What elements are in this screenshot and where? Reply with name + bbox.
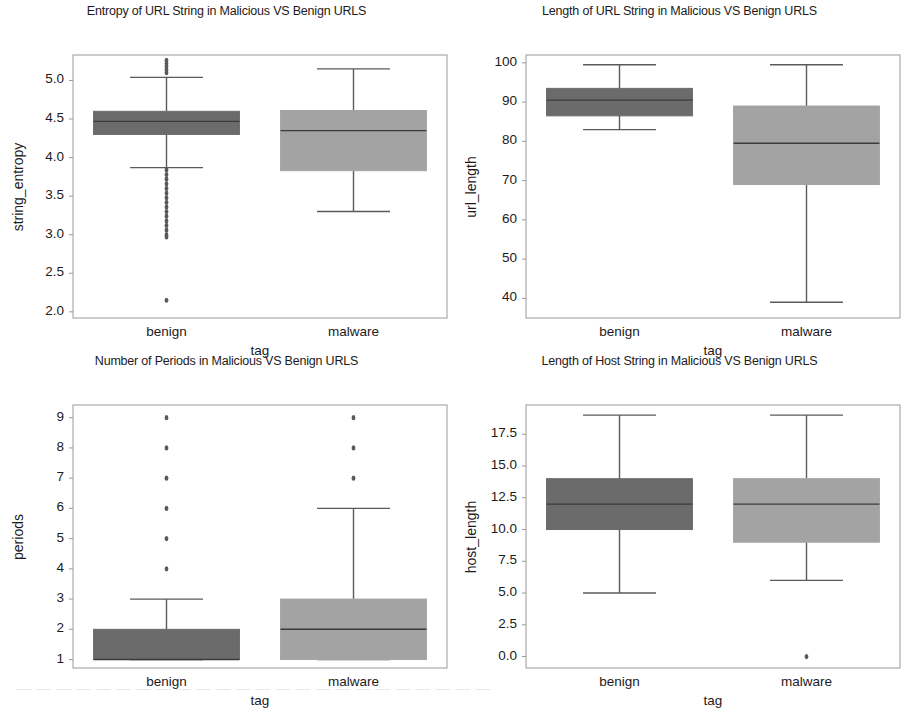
- y-axis-tick-label: 2.0: [0, 303, 64, 318]
- y-axis-tick-label: 15.0: [453, 457, 517, 472]
- x-axis-tick-label: malware: [747, 324, 867, 339]
- x-axis-tick-label: benign: [107, 324, 227, 339]
- x-axis-tick-label: malware: [294, 674, 414, 689]
- y-axis-tick-label: 90: [453, 93, 517, 108]
- y-axis-tick-label: 100: [453, 54, 517, 69]
- y-axis-tick-label: 2.5: [0, 264, 64, 279]
- y-axis-tick-label: 4: [0, 560, 64, 575]
- y-axis-tick-label: 0.0: [453, 648, 517, 663]
- y-axis-tick-label: 2: [0, 620, 64, 635]
- y-axis-tick-label: 9: [0, 409, 64, 424]
- chart-panel-2: Number of Periods in Malicious VS Benign…: [0, 350, 453, 700]
- x-axis-tick-label: malware: [747, 674, 867, 689]
- y-axis-label: string_entropy: [10, 142, 26, 231]
- y-axis-tick-label: 1: [0, 651, 64, 666]
- y-axis-tick-label: 5.0: [453, 584, 517, 599]
- x-axis-label: tag: [526, 693, 900, 708]
- y-axis-label: host_length: [463, 500, 479, 572]
- x-axis-tick-label: malware: [294, 324, 414, 339]
- x-axis-tick-label: benign: [107, 674, 227, 689]
- y-axis-label: url_length: [463, 156, 479, 218]
- y-axis-tick-label: 3: [0, 590, 64, 605]
- y-axis-tick-label: 4.5: [0, 110, 64, 125]
- y-axis-tick-label: 2.5: [453, 616, 517, 631]
- x-axis-tick-label: benign: [560, 324, 680, 339]
- y-axis-label: periods: [10, 514, 26, 560]
- y-axis-tick-label: 17.5: [453, 425, 517, 440]
- x-axis-tick-label: benign: [560, 674, 680, 689]
- y-axis-tick-label: 8: [0, 439, 64, 454]
- y-axis-tick-label: 7: [0, 469, 64, 484]
- y-axis-tick-label: 50: [453, 250, 517, 265]
- y-axis-tick-label: 6: [0, 499, 64, 514]
- chart-panel-1: Length of URL String in Malicious VS Ben…: [453, 0, 906, 350]
- chart-panel-0: Entropy of URL String in Malicious VS Be…: [0, 0, 453, 350]
- y-axis-tick-label: 5.0: [0, 71, 64, 86]
- chart-panel-3: Length of Host String in Malicious VS Be…: [453, 350, 906, 700]
- y-axis-tick-label: 40: [453, 289, 517, 304]
- y-axis-tick-label: 80: [453, 132, 517, 147]
- x-axis-label: tag: [73, 693, 447, 708]
